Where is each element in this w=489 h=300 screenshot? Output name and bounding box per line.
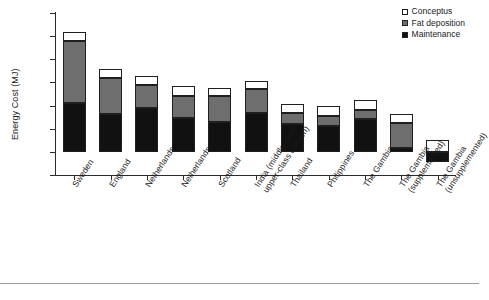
bar-segment-conceptus: [63, 32, 86, 41]
bar-segment-maintenance: [135, 108, 158, 152]
bar-group: [63, 13, 86, 175]
bar-group: [317, 13, 340, 175]
y-tick-mark: [50, 129, 55, 130]
bar-segment-fat-deposition: [135, 85, 158, 108]
y-tick-mark: [50, 175, 55, 176]
legend-swatch-maintenance-icon: [402, 32, 408, 38]
bar-segment-maintenance: [172, 118, 195, 152]
plot-area: [56, 13, 456, 175]
legend-label-maintenance: Maintenance: [412, 29, 461, 41]
bar-segment-conceptus: [135, 76, 158, 85]
bar-segment-fat-deposition: [390, 123, 413, 148]
bar-segment-conceptus: [281, 104, 304, 113]
bar-segment-fat-deposition: [317, 116, 340, 126]
bar-segment-fat-deposition: [208, 96, 231, 121]
bar-segment-fat-deposition: [354, 110, 377, 119]
bar-segment-conceptus: [99, 69, 122, 78]
footer-rule: [0, 283, 479, 284]
bar-segment-maintenance: [317, 126, 340, 151]
y-axis-title: Energy Cost (MJ): [10, 68, 20, 140]
bar-segment-maintenance: [208, 122, 231, 152]
legend-swatch-conceptus-icon: [402, 9, 408, 15]
bar-segment-fat-deposition: [245, 89, 268, 112]
y-tick-mark: [50, 106, 55, 107]
bar-segment-fat-deposition: [172, 96, 195, 119]
y-tick-mark: [50, 36, 55, 37]
legend-label-conceptus: Conceptus: [412, 6, 453, 18]
bar-segment-fat-deposition: [63, 41, 86, 103]
bar-group: [245, 13, 268, 175]
y-tick-mark: [50, 152, 55, 153]
y-tick-mark: [50, 82, 55, 83]
bar-segment-conceptus: [354, 100, 377, 110]
bar-segment-conceptus: [172, 86, 195, 95]
legend-swatch-fat-deposition-icon: [402, 20, 408, 26]
legend-item-maintenance: Maintenance: [402, 29, 465, 41]
bar-group: [99, 13, 122, 175]
bar-segment-conceptus: [390, 114, 413, 123]
bar-segment-conceptus: [317, 106, 340, 116]
bar-segment-maintenance: [63, 103, 86, 152]
bar-group: [135, 13, 158, 175]
y-tick-mark: [50, 13, 55, 14]
bar-segment-maintenance: [245, 113, 268, 152]
legend-item-conceptus: Conceptus: [402, 6, 465, 18]
bar-segment-fat-deposition: [99, 78, 122, 115]
legend-item-fat-deposition: Fat deposition: [402, 18, 465, 30]
bar-segment-maintenance: [99, 114, 122, 151]
legend-label-fat-deposition: Fat deposition: [412, 18, 465, 30]
bar-group: [354, 13, 377, 175]
bar-segment-conceptus: [208, 88, 231, 97]
bar-segment-maintenance: [354, 119, 377, 151]
bar-segment-conceptus: [245, 81, 268, 89]
y-tick-mark: [50, 59, 55, 60]
chart-legend: Conceptus Fat deposition Maintenance: [402, 6, 465, 41]
